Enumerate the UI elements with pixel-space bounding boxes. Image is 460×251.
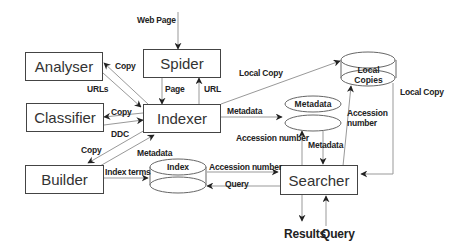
local-copy-right-label: Local Copy bbox=[400, 87, 444, 97]
copy-to-builder-label: Copy bbox=[81, 145, 101, 155]
accession-number-meta-label: Accession number bbox=[236, 133, 309, 143]
copy-to-analyser-label: Copy bbox=[115, 61, 135, 71]
url-label: URL bbox=[204, 84, 221, 94]
copy-to-classifier-label: Copy bbox=[111, 107, 131, 117]
urls-label: URLs bbox=[87, 84, 108, 94]
query-bottom-label: Query bbox=[321, 227, 355, 241]
metadata-builder-label: Metadata bbox=[137, 148, 172, 158]
spider-box: Spider bbox=[143, 49, 221, 78]
ddc-label: DDC bbox=[111, 129, 129, 139]
accession-number-index-label: Accession number bbox=[209, 162, 282, 172]
accession-number-local-label: Accession number bbox=[347, 108, 388, 128]
analyser-box: Analyser bbox=[25, 52, 103, 81]
accession-line1: Accession bbox=[347, 108, 388, 118]
local-copy-top-label: Local Copy bbox=[239, 68, 283, 78]
metadata-searcher-label: Metadata bbox=[308, 140, 343, 150]
index-terms-label: Index terms bbox=[105, 167, 151, 177]
query-index-label: Query bbox=[225, 179, 249, 189]
web-page-label: Web Page bbox=[137, 15, 176, 25]
searcher-box: Searcher bbox=[280, 165, 358, 195]
builder-box: Builder bbox=[25, 165, 104, 194]
metadata-store-label: Metadata bbox=[285, 99, 341, 109]
local-copies-line2: Copies bbox=[341, 75, 396, 85]
indexer-box: Indexer bbox=[143, 104, 221, 133]
metadata-indexer-label: Metadata bbox=[227, 106, 262, 116]
results-label: Results bbox=[284, 227, 326, 241]
page-label: Page bbox=[165, 84, 185, 94]
accession-line2: number bbox=[347, 118, 388, 128]
index-store-label: Index bbox=[150, 162, 206, 172]
local-copies-line1: Local bbox=[341, 65, 396, 75]
classifier-box: Classifier bbox=[26, 103, 104, 132]
local-copies-store-label: Local Copies bbox=[341, 65, 396, 85]
